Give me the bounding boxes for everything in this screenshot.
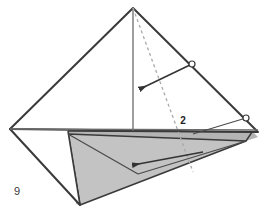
fold-point-lower-icon (243, 115, 249, 121)
fold-label-2: 2 (180, 115, 186, 126)
origami-diagram-canvas: 2 9 (0, 0, 266, 214)
upper-fold-arrow (140, 64, 192, 89)
origami-figure: 2 9 (0, 0, 266, 214)
flap-top-edge (68, 131, 252, 132)
figure-step-number: 9 (14, 185, 20, 197)
shaded-flap-front (68, 134, 246, 205)
fold-point-upper-icon (189, 61, 195, 67)
main-triangle (10, 8, 258, 132)
